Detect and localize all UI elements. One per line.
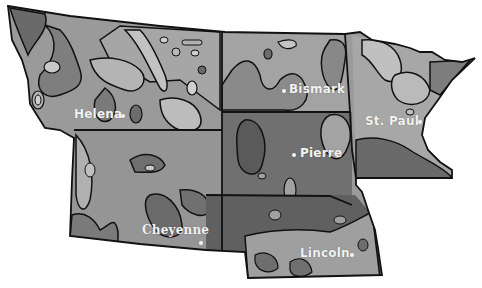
city-label-helena: Helena — [74, 107, 122, 121]
city-dot-cheyenne — [199, 241, 203, 245]
city-label-pierre: Pierre — [300, 146, 342, 160]
city-label-lincoln: Lincoln — [300, 246, 350, 260]
city-label-st-paul: St. Paul — [365, 114, 419, 128]
city-dot-pierre — [292, 153, 296, 157]
city-label-cheyenne: Cheyenne — [142, 223, 209, 237]
city-dot-lincoln — [350, 253, 354, 257]
city-label-bismark: Bismark — [289, 82, 345, 96]
city-dot-helena — [121, 114, 125, 118]
contour-map — [0, 0, 482, 288]
city-dot-bismark — [282, 89, 286, 93]
map-fill — [0, 0, 482, 288]
city-dot-st-paul — [418, 120, 422, 124]
